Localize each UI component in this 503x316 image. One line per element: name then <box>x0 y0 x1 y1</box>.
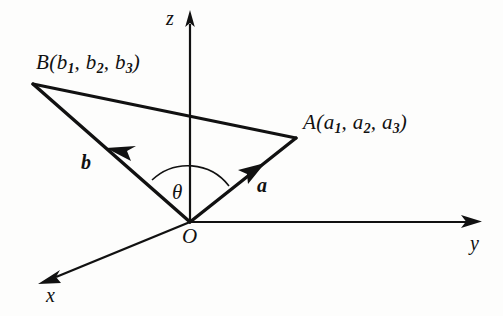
point-b-component-1: b1 <box>57 50 75 74</box>
point-a-component-2: a2 <box>353 110 371 134</box>
point-b-component-3: b3 <box>115 50 133 74</box>
x-axis-label: x <box>46 285 55 305</box>
point-b-close-paren: ) <box>133 50 140 74</box>
x-axis-line <box>56 222 190 277</box>
point-a-component-1-base: a <box>324 110 335 134</box>
point-a-label: A(a1, a2, a3) <box>303 112 407 136</box>
x-axis <box>38 222 190 284</box>
vector-b-label: b <box>81 152 91 172</box>
vector-b <box>33 84 190 222</box>
point-a-component-1: a1 <box>324 110 342 134</box>
y-axis-label: y <box>470 233 479 253</box>
point-a-close-paren: ) <box>400 110 407 134</box>
point-b-separator-1: , <box>74 50 85 74</box>
angle-theta-label: θ <box>172 182 182 203</box>
point-a-separator-1: , <box>341 110 352 134</box>
point-b-label: B(b1, b2, b3) <box>36 52 140 76</box>
point-b-component-3-base: b <box>115 50 126 74</box>
z-axis-label: z <box>166 8 174 28</box>
point-b-component-2-sub: 2 <box>97 61 104 76</box>
point-a-component-3-base: a <box>382 110 393 134</box>
point-a-component-3-sub: 3 <box>393 121 400 136</box>
diagram-canvas <box>0 0 503 316</box>
origin-label: O <box>182 226 197 247</box>
point-a-component-2-sub: 2 <box>364 121 371 136</box>
segment-ab <box>33 84 296 138</box>
point-b-letter: B <box>36 50 49 74</box>
y-axis <box>190 215 482 228</box>
point-a-component-3: a3 <box>382 110 400 134</box>
point-a-separator-2: , <box>371 110 382 134</box>
vector-a-line <box>190 138 296 222</box>
point-b-component-3-sub: 3 <box>126 61 133 76</box>
point-b-separator-2: , <box>104 50 115 74</box>
point-a-letter: A <box>303 110 316 134</box>
point-b-component-2: b2 <box>86 50 104 74</box>
point-a-open-paren: ( <box>316 110 323 134</box>
vector-b-line <box>33 84 190 222</box>
vector-angle-diagram: z y x O B(b1, b2, b3) A(a1, a2, a3) a b … <box>0 0 503 316</box>
point-b-component-2-base: b <box>86 50 97 74</box>
vector-a <box>190 138 296 222</box>
vector-a-label: a <box>257 175 267 195</box>
point-b-open-paren: ( <box>49 50 56 74</box>
point-b-component-1-base: b <box>57 50 68 74</box>
point-a-component-2-base: a <box>353 110 364 134</box>
segment-ab-line <box>33 84 296 138</box>
